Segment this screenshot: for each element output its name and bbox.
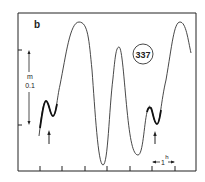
chart-canvas: m 0.1 b 337 1 h — [0, 0, 205, 182]
scale-unit-label: m — [27, 73, 33, 80]
scale-value-label: 0.1 — [25, 82, 35, 89]
highlight-segment-left — [40, 101, 57, 128]
arrow-up-icon — [47, 130, 50, 144]
y-axis-ticks — [18, 50, 22, 125]
panel-label: b — [34, 19, 40, 30]
highlight-segment-right — [147, 108, 161, 124]
badge-number: 337 — [135, 50, 150, 60]
arrow-up-icon — [153, 131, 156, 144]
data-curve — [39, 22, 191, 165]
x-axis-ticks — [40, 166, 175, 171]
time-scale-sup: h — [165, 154, 168, 160]
